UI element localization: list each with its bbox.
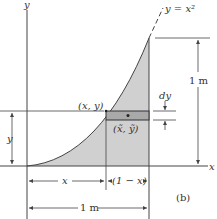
curve-extension — [149, 8, 163, 38]
figure-label: (b) — [176, 192, 190, 203]
x-axis-label: x — [209, 161, 215, 172]
remaining-dimension-label: (1 − x) — [112, 175, 147, 186]
y-axis-label: y — [23, 0, 30, 10]
x-dimension-label: x — [62, 175, 68, 186]
point-label: (x, y) — [78, 100, 104, 111]
width-dimension-label: 1 m — [80, 202, 100, 213]
y-dimension-label: y — [6, 133, 13, 144]
curve-point — [105, 110, 108, 113]
centroid-label: (x̃, ỹ) — [113, 123, 139, 134]
diagram-canvas: y x y = x² (x, y) (x̃, ỹ) dy 1 m y x (1… — [0, 0, 217, 219]
dy-label: dy — [159, 90, 171, 101]
curve-equation-label: y = x² — [164, 3, 195, 14]
centroid-dot — [127, 114, 130, 117]
height-dimension-label: 1 m — [189, 75, 209, 86]
